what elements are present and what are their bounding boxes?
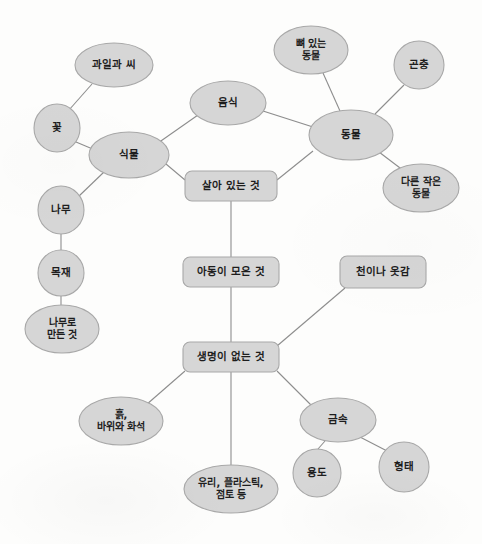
node-label-insect: 곤충	[409, 58, 429, 70]
node-label-fruit_seed: 과일과 씨	[92, 58, 136, 70]
node-label-line: 흙,	[115, 408, 128, 420]
node-label-timber: 목재	[51, 266, 71, 278]
node-label-metal: 금속	[328, 413, 348, 425]
node-living[interactable]: 살아 있는 것	[185, 171, 277, 201]
node-label-line: 동물	[341, 128, 361, 140]
node-label-line: 동물	[302, 50, 320, 61]
node-form[interactable]: 형태	[379, 442, 429, 492]
node-label-line: 형태	[394, 460, 414, 472]
node-cloth[interactable]: 천이나 옷감	[340, 256, 426, 288]
node-label-line: 꽃	[52, 121, 62, 133]
node-label-line: 나무	[51, 203, 71, 215]
node-label-living: 살아 있는 것	[202, 179, 259, 191]
edge-plant-to-tree	[78, 172, 104, 197]
node-label-line: 식물	[119, 148, 139, 160]
edge-plant-to-food	[158, 115, 198, 143]
edge-food-to-animal	[263, 111, 313, 127]
node-tree[interactable]: 나무	[38, 186, 84, 234]
node-label-usage: 용도	[307, 466, 327, 478]
node-fruit_seed[interactable]: 과일과 씨	[75, 43, 153, 87]
node-label-line: 곤충	[409, 58, 429, 70]
node-label-line: 동물	[412, 188, 430, 199]
node-usage[interactable]: 용도	[293, 449, 341, 497]
node-wood_made[interactable]: 나무로만든 것	[25, 305, 99, 353]
edge-cloth-to-nonliving	[277, 288, 345, 346]
node-label-line: 점토 등	[216, 489, 246, 500]
node-flower[interactable]: 꽃	[34, 104, 80, 152]
edge-nonliving-to-soil_rock	[146, 371, 185, 405]
node-label-line: 천이나 옷감	[356, 265, 410, 277]
node-animal[interactable]: 동물	[309, 110, 393, 160]
edge-fruit_seed-to-flower	[69, 84, 92, 110]
node-label-line: 나무로	[49, 316, 76, 328]
node-label-cloth: 천이나 옷감	[356, 265, 410, 277]
node-plant[interactable]: 식물	[89, 132, 169, 178]
node-label-tree: 나무	[51, 203, 71, 215]
node-label-plant: 식물	[119, 148, 139, 160]
node-label-flower: 꽃	[52, 121, 62, 133]
nodes-layer: 과일과 씨꽃식물나무목재나무로만든 것음식뼈 있는동물곤충동물다른 작은동물살아…	[25, 26, 459, 513]
node-soil_rock[interactable]: 흙,바위와 화석	[79, 397, 163, 445]
node-label-line: 용도	[307, 466, 327, 478]
node-label-line: 뼈 있는	[296, 37, 326, 49]
node-other_small[interactable]: 다른 작은동물	[383, 164, 459, 212]
node-nonliving[interactable]: 생명이 없는 것	[183, 342, 279, 372]
node-label-line: 살아 있는 것	[202, 179, 259, 191]
edge-plant-to-living	[166, 164, 185, 180]
node-label-form: 형태	[394, 460, 414, 472]
node-label-child_collect: 아동이 모은 것	[197, 265, 264, 277]
node-metal[interactable]: 금속	[300, 398, 376, 442]
node-label-line: 음식	[218, 96, 238, 108]
edge-animal-to-living	[277, 151, 313, 180]
edge-metal-to-form	[360, 437, 389, 452]
node-glass_clay[interactable]: 유리, 플라스틱,점토 등	[184, 465, 278, 513]
node-label-line: 생명이 없는 것	[197, 350, 264, 362]
concept-map-svg: 과일과 씨꽃식물나무목재나무로만든 것음식뼈 있는동물곤충동물다른 작은동물살아…	[0, 0, 482, 544]
node-child_collect[interactable]: 아동이 모은 것	[183, 257, 279, 287]
node-label-line: 유리, 플라스틱,	[198, 476, 263, 488]
node-label-line: 과일과 씨	[92, 58, 136, 70]
node-label-line: 금속	[328, 413, 348, 425]
node-label-line: 아동이 모은 것	[197, 265, 264, 277]
node-label-line: 만든 것	[47, 328, 77, 340]
concept-map-canvas: 과일과 씨꽃식물나무목재나무로만든 것음식뼈 있는동물곤충동물다른 작은동물살아…	[0, 0, 482, 544]
node-label-animal: 동물	[341, 128, 361, 140]
node-timber[interactable]: 목재	[38, 250, 84, 296]
edge-insect-to-animal	[375, 85, 404, 114]
node-label-nonliving: 생명이 없는 것	[197, 350, 264, 362]
edge-nonliving-to-metal	[277, 371, 312, 406]
node-food[interactable]: 음식	[190, 81, 266, 125]
node-label-food: 음식	[218, 96, 238, 108]
node-insect[interactable]: 곤충	[394, 41, 444, 89]
node-boned_animal[interactable]: 뼈 있는동물	[274, 26, 348, 74]
node-label-line: 바위와 화석	[97, 420, 145, 432]
edge-boned_animal-to-animal	[323, 73, 340, 111]
edge-metal-to-usage	[318, 441, 325, 449]
node-label-line: 목재	[51, 266, 71, 278]
node-label-line: 다른 작은	[401, 175, 440, 187]
